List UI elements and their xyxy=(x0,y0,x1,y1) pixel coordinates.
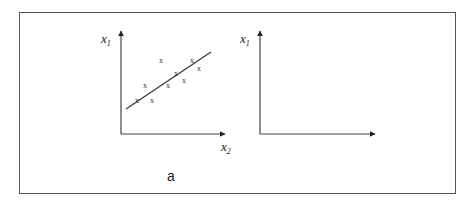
figure-canvas: x1 x2 x x x x x x x x x a x1 xyxy=(0,0,473,207)
svg-text:x: x xyxy=(197,64,201,73)
svg-text:x: x xyxy=(166,81,170,90)
svg-text:x: x xyxy=(190,56,194,65)
svg-text:x: x xyxy=(135,96,139,105)
panel-b-y-label: x1 xyxy=(239,31,250,48)
panel-b: x1 xyxy=(239,31,375,134)
svg-text:x: x xyxy=(182,76,186,85)
svg-text:x: x xyxy=(150,96,154,105)
svg-text:x: x xyxy=(159,56,163,65)
panel-a: x1 x2 x x x x x x x x x a xyxy=(100,31,231,184)
panel-a-x-label: x2 xyxy=(220,139,231,156)
svg-text:x: x xyxy=(174,69,178,78)
svg-text:x: x xyxy=(143,81,147,90)
panel-a-y-label: x1 xyxy=(100,31,111,48)
panel-a-label: a xyxy=(167,168,175,184)
panel-a-points: x x x x x x x x x xyxy=(135,56,201,105)
